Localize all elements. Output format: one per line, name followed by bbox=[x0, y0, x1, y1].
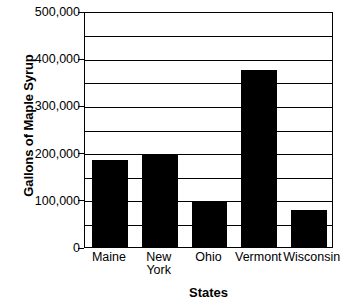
y-axis-tick-label: 200,000 bbox=[18, 148, 80, 161]
y-axis-tick-label: 400,000 bbox=[18, 53, 80, 66]
x-axis-tick-label: Ohio bbox=[184, 251, 234, 264]
bar[interactable] bbox=[291, 210, 327, 247]
x-axis-tick-label: New York bbox=[134, 251, 184, 277]
x-axis-title: States bbox=[84, 285, 333, 300]
y-axis-tick-label: 100,000 bbox=[18, 195, 80, 208]
bar[interactable] bbox=[241, 70, 277, 247]
y-axis-tick-labels: 500,000400,000300,000200,000100,0000 bbox=[14, 0, 80, 304]
bar[interactable] bbox=[142, 155, 178, 247]
x-axis-tick-label: Wisconsin bbox=[283, 251, 333, 264]
bar-chart: Gallons of Maple Syrup 500,000400,000300… bbox=[0, 0, 342, 304]
x-axis-tick-label: Maine bbox=[84, 251, 134, 264]
bar[interactable] bbox=[92, 160, 128, 247]
plot-area bbox=[84, 12, 333, 248]
y-axis-tick-label: 0 bbox=[18, 242, 80, 255]
bars-group bbox=[85, 13, 332, 247]
bar[interactable] bbox=[192, 201, 228, 247]
y-axis-tick-label: 500,000 bbox=[18, 6, 80, 19]
y-axis-tick-label: 300,000 bbox=[18, 100, 80, 113]
x-axis-tick-labels: MaineNew YorkOhioVermontWisconsin bbox=[84, 251, 333, 287]
x-axis-tick-label: Vermont bbox=[233, 251, 283, 264]
